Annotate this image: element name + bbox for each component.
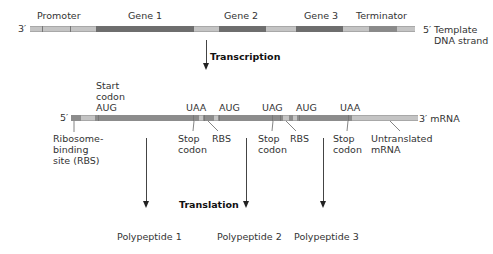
- translation-arrow-3-head: [320, 201, 326, 208]
- rbs-label-line1: Ribosome-: [53, 133, 103, 144]
- stop-codon-2-line1: Stop: [258, 133, 280, 144]
- pointer-lines: [0, 0, 493, 254]
- polypeptide-3: Polypeptide 3: [294, 231, 359, 242]
- rbs-3-label: RBS: [290, 133, 309, 144]
- stop-codon-1-line1: Stop: [178, 133, 200, 144]
- translation-arrow-2-head: [243, 201, 249, 208]
- stop-codon-1-line2: codon: [178, 144, 207, 155]
- translation-label: Translation: [179, 199, 239, 210]
- rbs-label-line2: binding: [53, 144, 88, 155]
- translation-arrow-1-head: [143, 201, 149, 208]
- untranslated-line2: mRNA: [371, 144, 400, 155]
- polypeptide-1: Polypeptide 1: [117, 231, 182, 242]
- stop-codon-3-line1: Stop: [333, 133, 355, 144]
- stop-codon-2-line2: codon: [258, 144, 287, 155]
- translation-arrow-1-shaft: [146, 138, 147, 202]
- rbs-label-line3: site (RBS): [53, 155, 100, 166]
- translation-arrow-2-shaft: [246, 138, 247, 202]
- polypeptide-2: Polypeptide 2: [217, 231, 282, 242]
- rbs-2-label: RBS: [212, 133, 231, 144]
- translation-arrow-3-shaft: [323, 138, 324, 202]
- stop-codon-3-line2: codon: [333, 144, 362, 155]
- untranslated-line1: Untranslated: [371, 133, 432, 144]
